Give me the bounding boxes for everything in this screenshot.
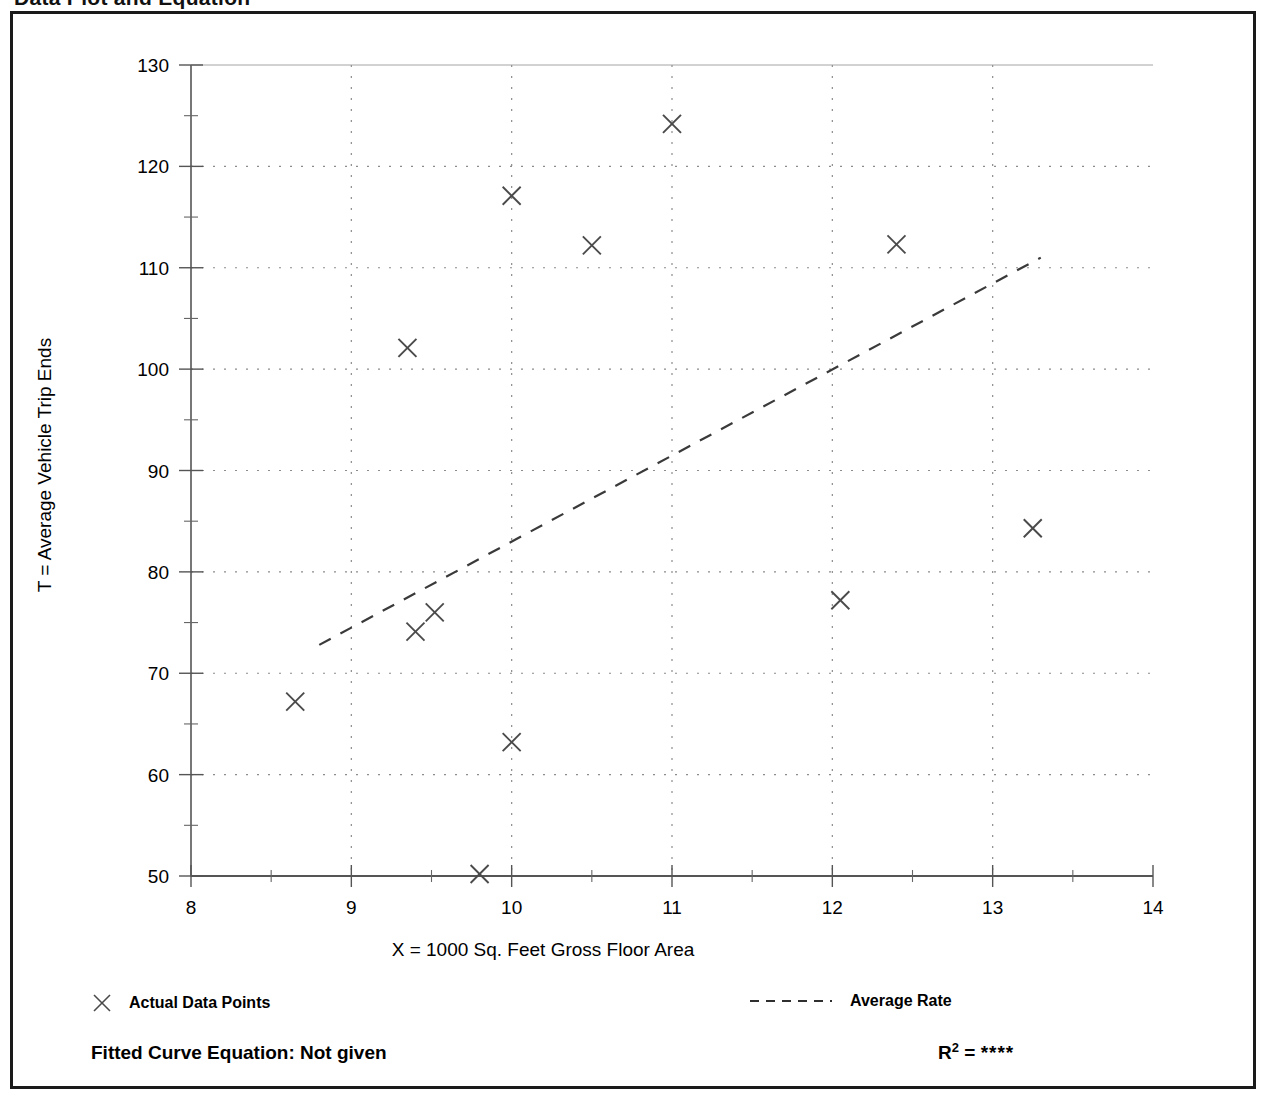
data-point-marker bbox=[471, 865, 489, 883]
x-marker-icon bbox=[91, 992, 113, 1014]
x-axis-title: X = 1000 Sq. Feet Gross Floor Area bbox=[193, 939, 893, 961]
y-axis-title: T = Average Vehicle Trip Ends bbox=[34, 285, 56, 645]
dashed-line-icon bbox=[748, 995, 834, 1007]
y-tick-label: 110 bbox=[139, 258, 169, 279]
x-tick-label: 8 bbox=[186, 897, 197, 914]
y-tick-label: 100 bbox=[137, 359, 169, 380]
y-tick-label: 70 bbox=[148, 663, 169, 684]
y-tick-label: 80 bbox=[148, 562, 169, 583]
data-point-marker bbox=[426, 603, 444, 621]
average-rate-line bbox=[319, 258, 1041, 645]
page-title: Data Plot and Equation bbox=[14, 0, 250, 10]
legend-item-actual-data-points: Actual Data Points bbox=[91, 992, 270, 1014]
y-tick-label: 60 bbox=[148, 765, 169, 786]
legend-item-average-rate: Average Rate bbox=[748, 992, 952, 1010]
chart-area: 5060708090100110120130891011121314 T = A… bbox=[13, 14, 1259, 1092]
gridlines-group bbox=[191, 65, 1153, 876]
ticks-group bbox=[179, 65, 1153, 887]
data-point-marker bbox=[887, 235, 905, 253]
y-tick-label: 90 bbox=[148, 461, 169, 482]
data-point-marker bbox=[503, 187, 521, 205]
fitted-curve-equation: Fitted Curve Equation: Not given bbox=[91, 1042, 387, 1064]
legend-label-actual-data-points: Actual Data Points bbox=[129, 994, 270, 1012]
figure-frame: 5060708090100110120130891011121314 T = A… bbox=[10, 11, 1256, 1089]
y-tick-label: 50 bbox=[148, 866, 169, 887]
x-tick-label: 12 bbox=[822, 897, 843, 914]
data-point-marker bbox=[583, 236, 601, 254]
x-tick-label: 10 bbox=[501, 897, 522, 914]
y-tick-label: 130 bbox=[137, 55, 169, 76]
r-squared-value: R2 = **** bbox=[938, 1040, 1014, 1064]
data-point-marker bbox=[406, 623, 424, 641]
x-tick-label: 11 bbox=[662, 897, 682, 914]
r2-equals: = bbox=[959, 1042, 981, 1063]
y-tick-label: 120 bbox=[137, 156, 169, 177]
x-tick-label: 14 bbox=[1142, 897, 1164, 914]
data-points-group bbox=[286, 115, 1042, 883]
r2-stars: **** bbox=[981, 1042, 1015, 1063]
scatter-plot: 5060708090100110120130891011121314 bbox=[13, 14, 1259, 914]
legend-label-average-rate: Average Rate bbox=[850, 992, 952, 1010]
trend-line bbox=[319, 258, 1041, 645]
data-point-marker bbox=[663, 115, 681, 133]
r2-exponent: 2 bbox=[952, 1040, 959, 1055]
tick-labels-group: 5060708090100110120130891011121314 bbox=[137, 55, 1164, 914]
x-tick-label: 13 bbox=[982, 897, 1003, 914]
r2-letter: R bbox=[938, 1042, 952, 1063]
data-point-marker bbox=[831, 591, 849, 609]
data-point-marker bbox=[286, 693, 304, 711]
data-point-marker bbox=[398, 339, 416, 357]
x-tick-label: 9 bbox=[346, 897, 357, 914]
data-point-marker bbox=[1024, 519, 1042, 537]
